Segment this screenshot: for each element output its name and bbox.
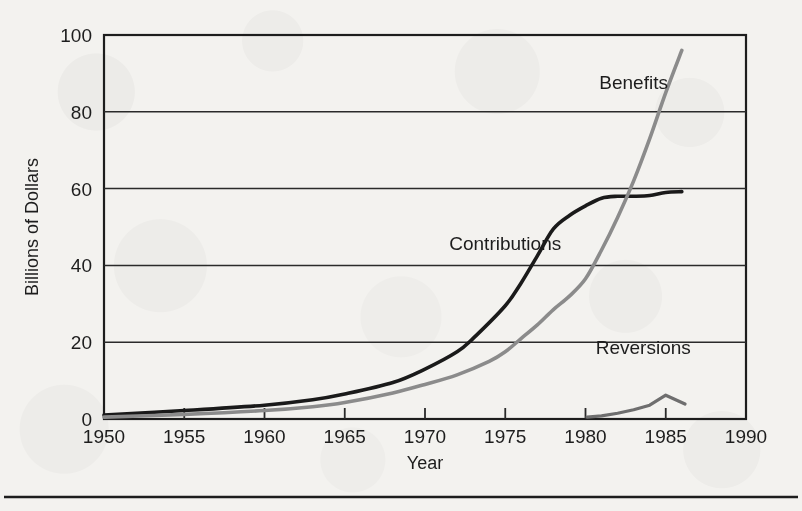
y-axis-tick-labels: 020406080100 bbox=[60, 25, 92, 430]
y-tick-label-100: 100 bbox=[60, 25, 92, 46]
y-tick-label-60: 60 bbox=[71, 179, 92, 200]
x-tick-label-1970: 1970 bbox=[404, 426, 446, 447]
x-tick-label-1955: 1955 bbox=[163, 426, 205, 447]
series-label-benefits: Benefits bbox=[599, 72, 668, 93]
y-axis-title: Billions of Dollars bbox=[22, 158, 42, 296]
x-tick-label-1985: 1985 bbox=[645, 426, 687, 447]
line-chart: 020406080100 195019551960196519701975198… bbox=[0, 0, 802, 511]
y-tick-label-20: 20 bbox=[71, 332, 92, 353]
x-axis-tick-labels: 195019551960196519701975198019851990 bbox=[83, 426, 767, 447]
series-line-benefits bbox=[104, 50, 682, 417]
x-axis-title: Year bbox=[407, 453, 443, 473]
y-tick-label-80: 80 bbox=[71, 102, 92, 123]
x-tick-label-1990: 1990 bbox=[725, 426, 767, 447]
gridlines bbox=[104, 112, 746, 342]
series-label-reversions: Reversions bbox=[596, 337, 691, 358]
x-tick-label-1975: 1975 bbox=[484, 426, 526, 447]
x-tick-label-1965: 1965 bbox=[324, 426, 366, 447]
series-lines bbox=[104, 50, 685, 417]
chart-page: 020406080100 195019551960196519701975198… bbox=[0, 0, 802, 511]
x-tick-label-1950: 1950 bbox=[83, 426, 125, 447]
series-label-contributions: Contributions bbox=[449, 233, 561, 254]
x-tick-label-1960: 1960 bbox=[243, 426, 285, 447]
series-line-contributions bbox=[104, 192, 682, 415]
y-tick-label-40: 40 bbox=[71, 255, 92, 276]
x-tick-label-1980: 1980 bbox=[564, 426, 606, 447]
series-line-reversions bbox=[587, 395, 685, 417]
